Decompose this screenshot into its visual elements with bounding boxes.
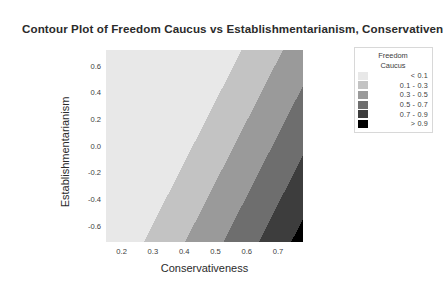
legend-item: < 0.1 — [358, 71, 428, 81]
legend-item: 0.1 - 0.3 — [358, 81, 428, 91]
legend-item: 0.7 - 0.9 — [358, 109, 428, 119]
y-tick-label: -0.4 — [75, 195, 101, 204]
legend-title: Freedom Caucus — [358, 51, 428, 70]
y-axis-title: Establishmentarianism — [59, 52, 71, 252]
legend-title-line1: Freedom — [358, 51, 428, 61]
legend-item: 0.5 - 0.7 — [358, 100, 428, 110]
y-tick-label: 0.0 — [75, 142, 101, 151]
legend-swatch — [358, 101, 368, 109]
x-axis-title: Conservativeness — [106, 262, 303, 274]
y-tick-label: -0.2 — [75, 168, 101, 177]
y-tick-label: 0.6 — [75, 62, 101, 71]
legend-label: < 0.1 — [371, 71, 428, 80]
legend-swatch — [358, 81, 368, 89]
y-tick-label: 0.2 — [75, 115, 101, 124]
y-tick-label: 0.4 — [75, 88, 101, 97]
legend: Freedom Caucus < 0.10.1 - 0.30.3 - 0.50.… — [354, 47, 433, 133]
legend-entries: < 0.10.1 - 0.30.3 - 0.50.5 - 0.70.7 - 0.… — [358, 71, 428, 129]
x-tick-label: 0.4 — [171, 247, 197, 256]
x-tick-label: 0.5 — [202, 247, 228, 256]
legend-label: 0.5 - 0.7 — [371, 100, 428, 109]
contour-plot-area — [106, 50, 303, 242]
legend-swatch — [358, 72, 368, 80]
legend-label: 0.7 - 0.9 — [371, 110, 428, 119]
x-tick-label: 0.2 — [109, 247, 135, 256]
legend-label: 0.3 - 0.5 — [371, 90, 428, 99]
legend-swatch — [358, 120, 368, 128]
legend-label: 0.1 - 0.3 — [371, 81, 428, 90]
x-tick-label: 0.6 — [234, 247, 260, 256]
page-title: Contour Plot of Freedom Caucus vs Establ… — [22, 21, 442, 36]
x-tick-label: 0.3 — [140, 247, 166, 256]
legend-label: > 0.9 — [371, 119, 428, 128]
y-tick-label: -0.6 — [75, 222, 101, 231]
x-tick-label: 0.7 — [265, 247, 291, 256]
legend-swatch — [358, 110, 368, 118]
legend-item: 0.3 - 0.5 — [358, 90, 428, 100]
legend-swatch — [358, 91, 368, 99]
legend-title-line2: Caucus — [358, 61, 428, 71]
legend-item: > 0.9 — [358, 119, 428, 129]
contour-bands — [106, 50, 303, 242]
